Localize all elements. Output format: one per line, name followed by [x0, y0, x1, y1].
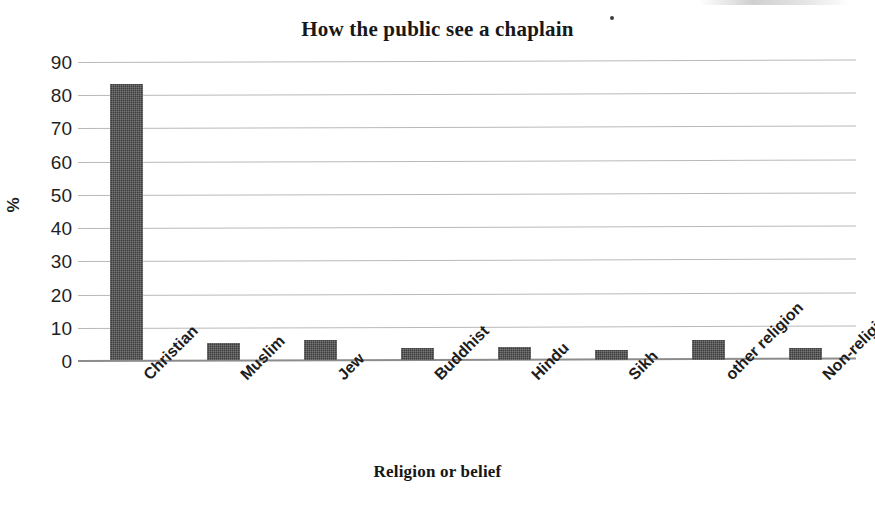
bar-muslim — [207, 343, 240, 360]
x-tick-label-non-religious: Non-religious — [819, 371, 832, 384]
x-tick-label-sikh: Sikh — [625, 371, 638, 384]
y-tick-label: 30 — [38, 252, 72, 271]
x-axis-title: Religion or belief — [0, 462, 875, 482]
x-axis-tick-labels: ChristianMuslimJewBuddhistHinduSikhother… — [78, 361, 856, 456]
y-axis-title: % — [4, 197, 24, 212]
y-tick-label: 40 — [38, 219, 72, 238]
bar-hindu — [498, 347, 531, 360]
bar-jew — [304, 340, 337, 360]
x-tick-label-buddhist: Buddhist — [431, 371, 444, 384]
gridline-40 — [78, 226, 856, 229]
bar-buddhist — [401, 348, 434, 360]
plot-area — [78, 62, 856, 361]
y-axis-tick-labels: 9080706050403020100 — [28, 62, 72, 361]
y-tick-label: 60 — [38, 153, 72, 172]
gridline-30 — [78, 259, 856, 262]
bar-other-religion — [692, 340, 725, 360]
y-tick-label: 80 — [38, 86, 72, 105]
y-tick-label: 70 — [38, 119, 72, 138]
chart-title: How the public see a chaplain — [0, 17, 875, 42]
y-tick-label: 10 — [38, 319, 72, 338]
bar-sikh — [595, 350, 628, 360]
bar-non-religious — [789, 348, 822, 360]
gridline-80 — [78, 93, 856, 96]
gridline-50 — [78, 192, 856, 195]
y-tick-label: 20 — [38, 286, 72, 305]
gridline-90 — [78, 60, 856, 63]
chart-figure: How the public see a chaplain % 90807060… — [0, 0, 875, 513]
gridline-20 — [78, 292, 856, 295]
x-tick-label-christian: Christian — [140, 371, 153, 384]
x-tick-label-muslim: Muslim — [237, 371, 250, 384]
x-tick-label-jew: Jew — [334, 371, 347, 384]
bar-christian — [110, 84, 143, 360]
y-tick-label: 0 — [38, 352, 72, 371]
scan-artifact-smudge — [700, 0, 850, 5]
x-tick-label-other-religion: other religion — [722, 371, 735, 384]
y-tick-label: 50 — [38, 186, 72, 205]
x-tick-label-hindu: Hindu — [528, 371, 541, 384]
gridline-60 — [78, 159, 856, 162]
y-tick-label: 90 — [38, 53, 72, 72]
gridline-70 — [78, 126, 856, 129]
